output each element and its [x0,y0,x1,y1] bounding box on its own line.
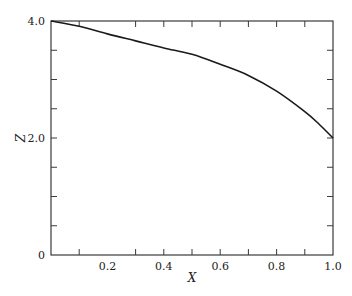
data-series [51,21,333,138]
y-tick-label: 2.0 [28,132,46,145]
plot-border [51,21,333,255]
y-tick-label: 4.0 [28,15,46,28]
plot-frame [51,21,333,255]
x-tick-label: 0.4 [155,260,173,273]
x-tick-label: 1.0 [324,260,342,273]
x-tick-label: 0.2 [99,260,117,273]
x-tick-label: 0.6 [211,260,229,273]
series-line [51,21,333,138]
y-axis-label: Z [14,133,28,143]
axis-ticks [51,21,333,255]
y-axis-tick-labels: 02.04.0 [28,15,46,262]
x-axis-tick-labels: 0.20.40.60.81.0 [99,260,342,273]
line-chart: 0.20.40.60.81.0 02.04.0 X Z [0,0,352,296]
x-tick-label: 0.8 [268,260,286,273]
x-axis-label: X [187,271,197,285]
y-tick-label: 0 [38,249,45,262]
